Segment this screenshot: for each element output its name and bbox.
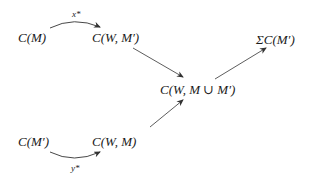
diagram-edges — [0, 0, 316, 179]
node-c-w-m-prime: C(W, M′) — [92, 31, 139, 44]
arrow-cwm-prime-to-union — [133, 48, 183, 77]
node-c-w-union: C(W, M ∪ M′) — [160, 83, 235, 96]
arrow-x-star — [50, 22, 100, 28]
arrow-cwm-to-union — [150, 100, 183, 127]
node-c-w-m: C(W, M) — [92, 135, 136, 148]
node-c-m: C(M) — [18, 31, 46, 44]
edge-label-x-star: x* — [72, 10, 81, 19]
commutative-diagram: C(M) C(W, M′) ΣC(M′) C(W, M ∪ M′) C(M′) … — [0, 0, 316, 179]
node-sigma-c-m-prime: ΣC(M′) — [256, 33, 295, 46]
node-c-m-prime: C(M′) — [18, 135, 49, 148]
arrow-y-star — [50, 152, 100, 158]
edge-label-y-star: y* — [71, 164, 80, 173]
arrow-union-to-sigma — [215, 48, 266, 79]
